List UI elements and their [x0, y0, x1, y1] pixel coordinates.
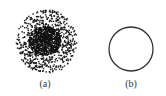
panel-b-label: (b): [116, 78, 146, 89]
circle-outline: [109, 27, 153, 71]
panel-a-label: (a): [30, 78, 60, 89]
